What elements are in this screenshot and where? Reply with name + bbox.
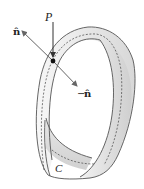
point-p-label: P	[44, 10, 53, 24]
point-p-dot	[51, 59, 56, 64]
curve-c-label: C	[55, 162, 63, 174]
normal-vector-arrow	[22, 31, 53, 61]
strip-band-bottom	[46, 118, 92, 170]
negative-normal-vector-arrow	[53, 61, 77, 86]
negative-normal-label: n̂	[84, 88, 92, 99]
mobius-diagram: n̂ P − n̂ C	[0, 0, 144, 189]
normal-label: n̂	[13, 26, 21, 37]
